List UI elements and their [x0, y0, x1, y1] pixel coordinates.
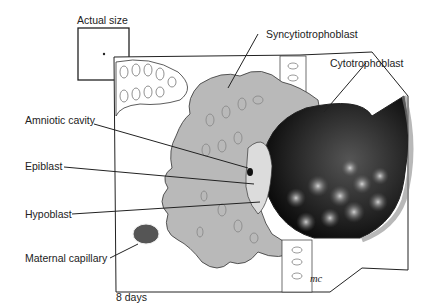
maternal-capillary-label: Maternal capillary	[25, 252, 107, 264]
cytotrophoblast-label: Cytotrophoblast	[330, 57, 404, 69]
hypoblast-label: Hypoblast	[25, 208, 72, 220]
caption: 8 days	[116, 291, 147, 303]
epiblast-label: Epiblast	[25, 160, 62, 172]
artist-signature: mc	[310, 273, 322, 285]
amniotic-cavity-label: Amniotic cavity	[25, 114, 95, 126]
maternal-capillary	[133, 224, 159, 244]
syncytiotrophoblast-label: Syncytiotrophoblast	[266, 28, 358, 40]
actual-size-label: Actual size	[77, 14, 128, 26]
